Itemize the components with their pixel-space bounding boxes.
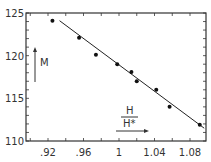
arrow-head-icon xyxy=(33,47,37,52)
y-axis-label: M xyxy=(33,47,49,82)
y-tick-label: 120 xyxy=(5,51,24,62)
x-tick-label: 1.04 xyxy=(143,147,165,158)
x-label-numerator: H xyxy=(126,105,134,116)
x-axis-label: H H* xyxy=(116,105,149,133)
y-tick-label: 125 xyxy=(5,8,24,19)
chart: .92.9611.041.08 110115120125 M H H* xyxy=(0,0,211,162)
data-point xyxy=(77,36,81,40)
data-point xyxy=(135,79,139,83)
x-label-denominator: H* xyxy=(123,118,136,129)
x-tick-label: 1.08 xyxy=(179,147,201,158)
x-axis-ticks: .92.9611.041.08 xyxy=(30,13,201,158)
y-tick-label: 115 xyxy=(5,93,24,104)
data-point xyxy=(94,53,98,57)
y-tick-label: 110 xyxy=(5,136,24,147)
data-point xyxy=(50,19,54,23)
data-point xyxy=(198,123,202,127)
data-point xyxy=(115,62,119,66)
x-tick-label: .92 xyxy=(40,147,56,158)
y-label-text: M xyxy=(40,57,49,68)
x-tick-label: .96 xyxy=(76,147,92,158)
x-tick-label: 1 xyxy=(116,147,122,158)
plot-frame xyxy=(26,13,206,141)
data-point xyxy=(168,105,172,109)
data-point xyxy=(129,70,133,74)
data-point xyxy=(154,88,158,92)
arrow-head-icon xyxy=(144,129,149,133)
